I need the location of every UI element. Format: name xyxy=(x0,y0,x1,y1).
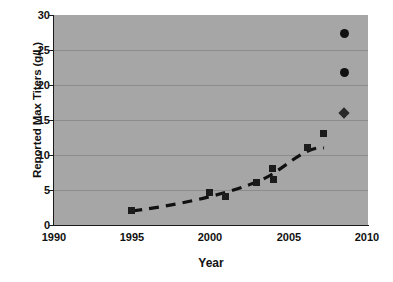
data-point-square xyxy=(206,189,213,196)
y-tick-label-15: 15 xyxy=(22,115,50,126)
chart-figure: Reported Max Titers (g/L) 30 25 20 15 10… xyxy=(0,0,393,282)
y-tick-label-25: 25 xyxy=(22,45,50,56)
x-tick-label-1990: 1990 xyxy=(30,231,78,243)
data-point-circle xyxy=(340,68,349,77)
data-point-square xyxy=(222,193,229,200)
y-tick-label-30: 30 xyxy=(22,10,50,21)
y-tick-label-5: 5 xyxy=(22,185,50,196)
y-tick-label-10: 10 xyxy=(22,150,50,161)
x-tick-label-2005: 2005 xyxy=(265,231,313,243)
data-point-square xyxy=(320,130,327,137)
y-axis-line xyxy=(53,15,54,226)
data-point-circle xyxy=(340,29,349,38)
y-tick-label-20: 20 xyxy=(22,80,50,91)
y-tick-label-0: 0 xyxy=(22,220,50,231)
data-point-square xyxy=(270,176,277,183)
data-point-square xyxy=(253,179,260,186)
x-axis-line xyxy=(53,225,369,226)
x-axis-label: Year xyxy=(54,256,368,270)
data-point-square xyxy=(128,207,135,214)
plot-area xyxy=(54,15,368,225)
data-point-square xyxy=(304,144,311,151)
x-tick-label-1995: 1995 xyxy=(108,231,156,243)
data-point-square xyxy=(269,165,276,172)
x-tick-label-2000: 2000 xyxy=(186,231,234,243)
x-tick-label-2010: 2010 xyxy=(343,231,391,243)
